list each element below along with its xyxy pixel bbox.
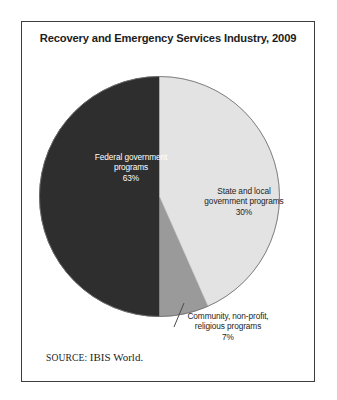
source-value: IBIS World. bbox=[90, 351, 143, 363]
page-title: Recovery and Emergency Services Industry… bbox=[22, 32, 314, 44]
source-label: SOURCE: bbox=[46, 352, 87, 363]
pie-label-state-value: 30% bbox=[184, 207, 304, 217]
pie-label-community-line-1: Community, non-profit, bbox=[148, 311, 308, 321]
source-note: SOURCE: IBIS World. bbox=[46, 351, 143, 363]
pie-label-state-line-2: government programs bbox=[184, 196, 304, 206]
pie-chart: Federal government programs 63% State an… bbox=[38, 75, 281, 318]
pie-slice-federal-government-programs[interactable] bbox=[40, 77, 160, 317]
pie-label-community-value: 7% bbox=[148, 332, 308, 342]
pie-label-community-non-profit-religious-programs: Community, non-profit, religious program… bbox=[148, 311, 308, 342]
pie-label-federal-line-1: Federal government bbox=[72, 152, 190, 162]
pie-label-state-and-local-government-programs: State and local government programs 30% bbox=[184, 186, 304, 217]
pie-label-federal-value: 63% bbox=[72, 173, 190, 183]
pie-label-federal-government-programs: Federal government programs 63% bbox=[72, 152, 190, 183]
figure-frame: Recovery and Emergency Services Industry… bbox=[21, 21, 315, 382]
pie-label-state-line-1: State and local bbox=[184, 186, 304, 196]
pie-label-federal-line-2: programs bbox=[72, 162, 190, 172]
pie-label-community-line-2: religious programs bbox=[148, 321, 308, 331]
